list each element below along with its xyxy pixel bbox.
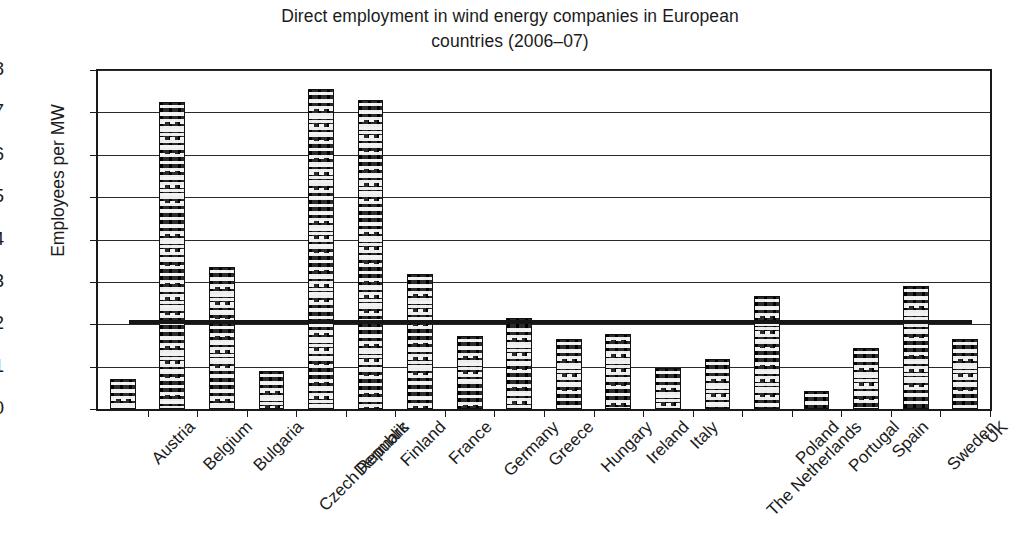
bar-pattern-layer — [260, 372, 284, 408]
x-tick-label-bulgaria: Bulgaria — [250, 418, 306, 474]
y-tick-label-0: 0 — [0, 398, 4, 417]
chart-title-line-2: countries (2006–07) — [431, 31, 589, 51]
bar-portugal[interactable] — [804, 391, 830, 409]
y-tick-label-1: 1 — [0, 356, 4, 375]
y-tick-label-5: 5 — [0, 186, 4, 205]
x-tick-label-france: France — [446, 418, 495, 467]
bar-czech-republic[interactable] — [259, 371, 285, 409]
y-tick-mark-0 — [90, 409, 98, 410]
bar-pattern-layer — [904, 287, 928, 408]
bar-pattern-layer — [557, 340, 581, 408]
y-tick-label-2: 2 — [0, 313, 4, 332]
y-tick-mark-7 — [90, 112, 98, 113]
bar-hungary[interactable] — [556, 339, 582, 409]
chart-figure: Direct employment in wind energy compani… — [0, 0, 1021, 539]
x-tick-mark-12 — [693, 409, 694, 417]
x-tick-mark-7 — [445, 409, 446, 417]
bar-denmark[interactable] — [308, 89, 334, 409]
bar-pattern-layer — [507, 319, 531, 408]
x-tick-label-austria: Austria — [148, 418, 197, 467]
x-tick-mark-18 — [990, 409, 991, 417]
y-tick-label-7: 7 — [0, 101, 4, 120]
bar-pattern-layer — [854, 349, 878, 408]
x-tick-label-denmark: Denmark — [351, 418, 412, 479]
bar-spain[interactable] — [853, 348, 879, 409]
x-tick-mark-2 — [197, 409, 198, 417]
bar-belgium[interactable] — [159, 102, 185, 409]
gridline-5 — [98, 197, 990, 198]
y-tick-mark-1 — [90, 367, 98, 368]
bar-bulgaria[interactable] — [209, 267, 235, 409]
x-tick-mark-14 — [792, 409, 793, 417]
bar-italy[interactable] — [655, 368, 681, 409]
bar-uk[interactable] — [952, 339, 978, 409]
y-tick-label-3: 3 — [0, 271, 4, 290]
x-tick-mark-1 — [148, 409, 149, 417]
bar-pattern-layer — [706, 360, 730, 408]
x-tick-label-belgium: Belgium — [200, 418, 255, 473]
x-tick-mark-16 — [891, 409, 892, 417]
y-tick-mark-8 — [90, 70, 98, 71]
bar-ireland[interactable] — [605, 334, 631, 409]
bar-pattern-layer — [309, 90, 333, 408]
bar-pattern-layer — [606, 335, 630, 408]
y-tick-mark-2 — [90, 324, 98, 325]
bar-pattern-layer — [111, 380, 135, 409]
x-tick-mark-6 — [395, 409, 396, 417]
gridline-8 — [98, 70, 990, 71]
chart-title-line-1: Direct employment in wind energy compani… — [281, 6, 739, 26]
y-tick-label-4: 4 — [0, 229, 4, 248]
x-tick-mark-17 — [940, 409, 941, 417]
y-tick-mark-4 — [90, 240, 98, 241]
x-tick-mark-15 — [841, 409, 842, 417]
bar-pattern-layer — [805, 392, 829, 408]
bar-pattern-layer — [458, 337, 482, 408]
average-reference-line — [129, 320, 972, 324]
bar-pattern-layer — [755, 297, 779, 408]
chart-title: Direct employment in wind energy compani… — [200, 4, 820, 54]
x-tick-mark-11 — [643, 409, 644, 417]
x-tick-label-italy: Italy — [687, 418, 721, 452]
bar-poland[interactable] — [754, 296, 780, 409]
gridline-7 — [98, 112, 990, 113]
bar-pattern-layer — [210, 268, 234, 408]
y-tick-label-8: 8 — [0, 59, 4, 78]
x-tick-mark-13 — [742, 409, 743, 417]
x-tick-mark-4 — [296, 409, 297, 417]
bar-sweden[interactable] — [903, 286, 929, 409]
x-tick-mark-8 — [494, 409, 495, 417]
plot-area — [96, 69, 992, 411]
y-axis-title: Employees per MW — [48, 31, 69, 331]
x-tick-mark-5 — [346, 409, 347, 417]
x-tick-label-hungary: Hungary — [598, 418, 655, 475]
gridline-4 — [98, 240, 990, 241]
y-tick-mark-5 — [90, 197, 98, 198]
y-tick-mark-3 — [90, 282, 98, 283]
bar-austria[interactable] — [110, 379, 136, 410]
bar-pattern-layer — [656, 369, 680, 408]
bar-the-netherlands[interactable] — [705, 359, 731, 409]
bar-pattern-layer — [359, 101, 383, 408]
bar-pattern-layer — [160, 103, 184, 408]
bar-germany[interactable] — [457, 336, 483, 409]
x-tick-mark-10 — [594, 409, 595, 417]
bar-france[interactable] — [407, 274, 433, 409]
x-tick-mark-3 — [247, 409, 248, 417]
gridline-6 — [98, 155, 990, 156]
y-tick-mark-6 — [90, 155, 98, 156]
x-tick-mark-9 — [544, 409, 545, 417]
bar-finland[interactable] — [358, 100, 384, 409]
y-tick-label-6: 6 — [0, 144, 4, 163]
bar-pattern-layer — [953, 340, 977, 408]
bar-pattern-layer — [408, 275, 432, 408]
bar-greece[interactable] — [506, 318, 532, 409]
